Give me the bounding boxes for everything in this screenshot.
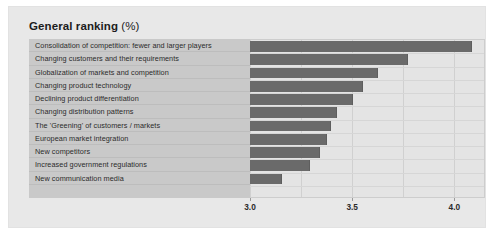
category-row: European market integration xyxy=(29,132,250,145)
bar xyxy=(250,121,331,132)
bar-row xyxy=(250,173,484,186)
bar-row xyxy=(250,159,484,172)
bar xyxy=(250,174,282,185)
category-row: New communication media xyxy=(29,172,250,185)
bar xyxy=(250,107,337,118)
category-label: Globalization of markets and competition xyxy=(35,67,169,76)
category-label: Changing product technology xyxy=(35,80,131,89)
bar-row xyxy=(250,80,484,93)
chart-plot-area: Consolidation of competition: fewer and … xyxy=(29,39,485,198)
bar-row xyxy=(250,133,484,146)
category-label: Consolidation of competition: fewer and … xyxy=(35,41,212,50)
category-row: Increased government regulations xyxy=(29,158,250,171)
chart-title-main: General ranking xyxy=(29,20,118,32)
bars-area xyxy=(250,39,485,198)
category-row: The 'Greening' of customers / markets xyxy=(29,119,250,132)
axis-tick xyxy=(250,198,251,201)
x-axis: 3.03.54.0 xyxy=(29,198,485,222)
bar-row xyxy=(250,146,484,159)
bar-row xyxy=(250,67,484,80)
bar xyxy=(250,160,310,171)
category-row: Declining product differentiation xyxy=(29,92,250,105)
bar xyxy=(250,134,327,145)
bar xyxy=(250,94,353,105)
chart-figure: General ranking (%) Consolidation of com… xyxy=(0,0,494,236)
axis-tick-label: 4.0 xyxy=(449,202,461,212)
chart-title-suffix: (%) xyxy=(121,20,139,32)
category-label: Declining product differentiation xyxy=(35,94,139,103)
axis-tick-label: 3.0 xyxy=(244,202,256,212)
category-row: Changing distribution patterns xyxy=(29,105,250,118)
category-label-column: Consolidation of competition: fewer and … xyxy=(29,39,251,198)
category-row: Consolidation of competition: fewer and … xyxy=(29,39,250,52)
category-label: New communication media xyxy=(35,173,124,182)
bar-row xyxy=(250,93,484,106)
category-label: The 'Greening' of customers / markets xyxy=(35,120,160,129)
axis-tick-label: 3.5 xyxy=(346,202,358,212)
category-label: European market integration xyxy=(35,133,128,142)
category-column-filler xyxy=(29,185,250,198)
category-row: Globalization of markets and competition xyxy=(29,66,250,79)
bar-row xyxy=(250,53,484,66)
bar xyxy=(250,147,320,158)
bar-row xyxy=(250,106,484,119)
bar xyxy=(250,41,472,52)
row-separator xyxy=(250,186,484,187)
category-label: Changing customers and their requirement… xyxy=(35,54,179,63)
bar-row xyxy=(250,120,484,133)
category-row: Changing customers and their requirement… xyxy=(29,52,250,65)
bar xyxy=(250,54,408,65)
category-label: New competitors xyxy=(35,147,90,156)
chart-panel: General ranking (%) Consolidation of com… xyxy=(8,6,486,228)
page-title: General ranking (%) xyxy=(29,20,140,32)
bar xyxy=(250,68,378,79)
category-row: Changing product technology xyxy=(29,79,250,92)
axis-tick xyxy=(352,198,353,201)
category-row: New competitors xyxy=(29,145,250,158)
category-label: Changing distribution patterns xyxy=(35,107,133,116)
axis-tick xyxy=(454,198,455,201)
bar-row xyxy=(250,40,484,53)
category-label: Increased government regulations xyxy=(35,160,147,169)
bar xyxy=(250,81,363,92)
